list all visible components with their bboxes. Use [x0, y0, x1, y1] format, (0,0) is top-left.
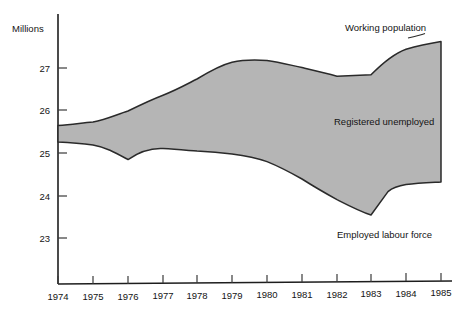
x-axis [58, 281, 452, 284]
x-tick-label-1980: 1980 [256, 289, 277, 300]
y-tick-label-27: 27 [39, 63, 50, 74]
y-tick-label-26: 26 [39, 105, 50, 116]
y-tick-label-25: 25 [39, 148, 50, 159]
working-population-label: Working population [345, 22, 426, 33]
area-chart: Millions 27 26 25 24 23 1974 1975 1976 1… [0, 0, 476, 312]
x-tick-label-1974: 1974 [47, 291, 68, 302]
y-tick-marks [58, 68, 67, 238]
x-tick-label-1982: 1982 [326, 289, 347, 300]
employed-labour-force-label: Employed labour force [337, 229, 432, 240]
x-tick-label-1977: 1977 [152, 290, 173, 301]
y-tick-label-24: 24 [39, 191, 50, 202]
x-tick-label-1976: 1976 [117, 291, 138, 302]
x-tick-label-1983: 1983 [360, 288, 381, 299]
y-tick-label-23: 23 [39, 233, 50, 244]
x-tick-label-1981: 1981 [291, 289, 312, 300]
x-tick-label-1985: 1985 [430, 287, 451, 298]
y-axis-unit-label: Millions [12, 23, 44, 34]
working-population-leader [408, 33, 425, 38]
registered-unemployed-band [58, 42, 441, 215]
registered-unemployed-label: Registered unemployed [334, 116, 434, 127]
x-tick-label-1984: 1984 [395, 288, 416, 299]
x-tick-label-1979: 1979 [221, 290, 242, 301]
chart-container: Millions 27 26 25 24 23 1974 1975 1976 1… [0, 0, 476, 312]
x-tick-label-1975: 1975 [82, 291, 103, 302]
x-tick-label-1978: 1978 [186, 290, 207, 301]
